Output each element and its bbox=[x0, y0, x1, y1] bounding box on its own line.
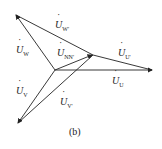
phasor-uw bbox=[16, 15, 55, 70]
label-uw-prime: UW' bbox=[55, 20, 69, 32]
phasor-uv-prime bbox=[18, 55, 93, 123]
label-uv-prime: UV' bbox=[60, 97, 73, 109]
figure-caption: (b) bbox=[69, 126, 81, 137]
label-uu: UU bbox=[112, 76, 124, 88]
label-uu-prime: UU' bbox=[118, 48, 131, 60]
label-unn: UNN' bbox=[57, 48, 74, 60]
phasor-diagram bbox=[0, 0, 162, 149]
label-uw: UW bbox=[16, 45, 29, 57]
label-uv: UV bbox=[16, 86, 28, 98]
